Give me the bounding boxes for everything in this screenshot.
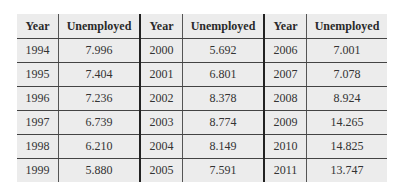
year-cell: 2008 — [264, 87, 307, 111]
unemployed-cell: 8.924 — [307, 87, 388, 111]
unemployment-table: Year Unemployed Year Unemployed Year Une… — [17, 14, 387, 182]
year-cell: 2001 — [140, 63, 183, 87]
header-unemployed: Unemployed — [307, 14, 388, 39]
table-row: 1996 7.236 2002 8.378 2008 8.924 — [17, 87, 387, 111]
table-row: 1999 5.880 2005 7.591 2011 13.747 — [17, 159, 387, 183]
header-year: Year — [17, 14, 59, 39]
year-cell: 1996 — [17, 87, 59, 111]
header-year: Year — [264, 14, 307, 39]
header-unemployed: Unemployed — [59, 14, 141, 39]
unemployed-cell: 5.880 — [59, 159, 141, 183]
unemployed-cell: 8.774 — [183, 111, 265, 135]
year-cell: 2009 — [264, 111, 307, 135]
year-cell: 2002 — [140, 87, 183, 111]
unemployed-cell: 7.591 — [183, 159, 265, 183]
unemployed-cell: 7.078 — [307, 63, 388, 87]
table-row: 1994 7.996 2000 5.692 2006 7.001 — [17, 39, 387, 63]
unemployed-cell: 6.801 — [183, 63, 265, 87]
year-cell: 2007 — [264, 63, 307, 87]
unemployed-cell: 7.236 — [59, 87, 141, 111]
year-cell: 2003 — [140, 111, 183, 135]
header-unemployed: Unemployed — [183, 14, 265, 39]
table-row: 1995 7.404 2001 6.801 2007 7.078 — [17, 63, 387, 87]
year-cell: 2010 — [264, 135, 307, 159]
unemployed-cell: 8.149 — [183, 135, 265, 159]
table-row: 1998 6.210 2004 8.149 2010 14.825 — [17, 135, 387, 159]
header-year: Year — [140, 14, 183, 39]
year-cell: 2000 — [140, 39, 183, 63]
unemployed-cell: 14.825 — [307, 135, 388, 159]
unemployed-cell: 7.996 — [59, 39, 141, 63]
unemployed-cell: 14.265 — [307, 111, 388, 135]
year-cell: 2011 — [264, 159, 307, 183]
unemployed-cell: 5.692 — [183, 39, 265, 63]
unemployed-cell: 6.210 — [59, 135, 141, 159]
table-row: 1997 6.739 2003 8.774 2009 14.265 — [17, 111, 387, 135]
unemployed-cell: 6.739 — [59, 111, 141, 135]
header-row: Year Unemployed Year Unemployed Year Une… — [17, 14, 387, 39]
year-cell: 1995 — [17, 63, 59, 87]
unemployed-cell: 8.378 — [183, 87, 265, 111]
year-cell: 2006 — [264, 39, 307, 63]
year-cell: 1998 — [17, 135, 59, 159]
year-cell: 2004 — [140, 135, 183, 159]
year-cell: 1997 — [17, 111, 59, 135]
unemployed-cell: 7.001 — [307, 39, 388, 63]
year-cell: 1999 — [17, 159, 59, 183]
unemployed-cell: 13.747 — [307, 159, 388, 183]
year-cell: 2005 — [140, 159, 183, 183]
year-cell: 1994 — [17, 39, 59, 63]
unemployed-cell: 7.404 — [59, 63, 141, 87]
